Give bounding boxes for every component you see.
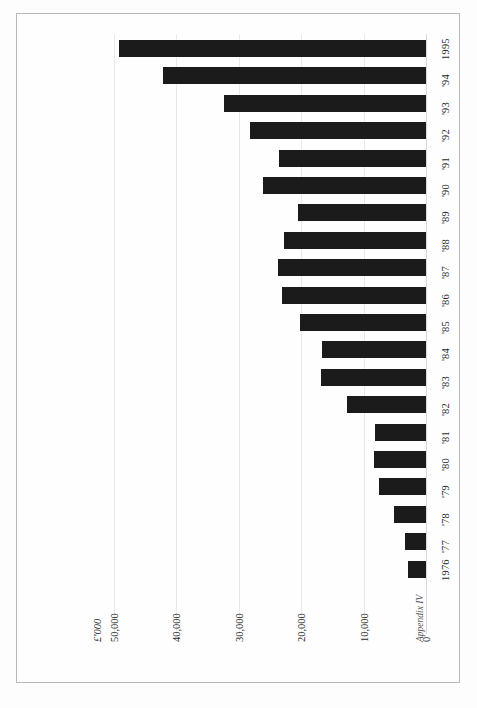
bar-86: [282, 287, 426, 304]
scanned-page: 1976'77'78'79'80'81'82'83'84'85'86'87'88…: [0, 0, 477, 708]
category-label-77: '77: [440, 540, 451, 553]
bar-80: [374, 451, 427, 468]
bar-87: [278, 259, 426, 276]
category-label-79: '79: [440, 485, 451, 498]
gridline-0: [426, 34, 427, 634]
bar-78: [394, 506, 426, 523]
appendix-caption: Appendix IV: [415, 595, 425, 642]
category-label-80: '80: [440, 458, 451, 471]
value-tick-20000: 20,000: [296, 613, 307, 642]
bar-89: [298, 204, 426, 221]
category-label-85: '85: [440, 321, 451, 334]
figure-frame: 1976'77'78'79'80'81'82'83'84'85'86'87'88…: [16, 13, 460, 683]
category-label-90: '90: [440, 184, 451, 197]
category-label-82: '82: [440, 403, 451, 416]
gridline-50000: [114, 34, 115, 634]
bar-79: [379, 478, 427, 495]
bar-77: [405, 533, 426, 550]
category-label-92: '92: [440, 129, 451, 142]
category-label-88: '88: [440, 239, 451, 252]
bar-82: [347, 396, 426, 413]
category-label-1995: 1995: [440, 38, 451, 60]
bar-81: [375, 424, 426, 441]
bar-1995: [119, 40, 426, 57]
category-label-91: '91: [440, 157, 451, 170]
category-label-1976: 1976: [440, 559, 451, 581]
bar-94: [163, 67, 426, 84]
category-label-93: '93: [440, 102, 451, 115]
category-label-83: '83: [440, 376, 451, 389]
bar-88: [284, 232, 426, 249]
gridline-30000: [239, 34, 240, 634]
value-tick-30000: 30,000: [234, 613, 245, 642]
category-label-78: '78: [440, 513, 451, 526]
bar-1976: [408, 561, 426, 578]
bar-chart-plot-area: 1976'77'78'79'80'81'82'83'84'85'86'87'88…: [37, 34, 429, 634]
bar-84: [322, 341, 426, 358]
value-tick-10000: 10,000: [359, 613, 370, 642]
gridline-40000: [176, 34, 177, 634]
category-label-94: '94: [440, 74, 451, 87]
category-label-81: '81: [440, 431, 451, 444]
category-label-87: '87: [440, 266, 451, 279]
bar-90: [263, 177, 426, 194]
bar-85: [300, 314, 426, 331]
value-axis-unit-label: £'000: [92, 619, 103, 642]
category-label-86: '86: [440, 294, 451, 307]
bar-83: [321, 369, 426, 386]
value-tick-50000: 50,000: [109, 613, 120, 642]
category-label-89: '89: [440, 211, 451, 224]
value-tick-40000: 40,000: [171, 613, 182, 642]
category-label-84: '84: [440, 348, 451, 361]
bar-92: [250, 122, 426, 139]
bar-93: [224, 95, 426, 112]
bar-91: [279, 150, 426, 167]
